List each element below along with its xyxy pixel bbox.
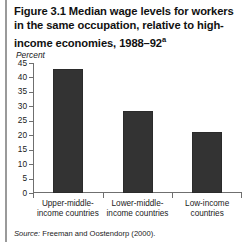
y-tick-label: 35: [18, 86, 27, 96]
x-tick-mark: [103, 193, 104, 198]
plot-area: 051015202530354045 Upper-middle- income …: [33, 63, 242, 193]
y-tick-label: 10: [18, 159, 27, 169]
bar: [123, 111, 153, 193]
y-tick-label: 30: [18, 101, 27, 111]
figure-title: Figure 3.1 Median wage levels for worker…: [14, 4, 246, 50]
y-tick-label: 20: [18, 130, 27, 140]
source-label: Source:: [14, 229, 40, 238]
title-footnote-marker: a: [162, 35, 166, 44]
y-tick-label: 25: [18, 115, 27, 125]
x-tick-mark: [33, 193, 34, 198]
y-tick-label: 0: [22, 188, 27, 198]
figure-container: Figure 3.1 Median wage levels for worker…: [0, 0, 252, 242]
bar: [192, 132, 222, 193]
bar: [53, 69, 83, 193]
x-tick-mark: [172, 193, 173, 198]
y-tick-label: 15: [18, 144, 27, 154]
y-tick-mark: [29, 150, 33, 151]
y-axis-line: [33, 63, 34, 193]
category-label: Low-income countries: [172, 199, 242, 219]
y-tick-mark: [29, 63, 33, 64]
x-tick-mark: [241, 193, 242, 198]
source-text: Freeman and Oostendorp (2000).: [40, 229, 155, 238]
y-tick-mark: [29, 135, 33, 136]
category-label: Upper-middle- income countries: [33, 199, 103, 219]
left-vertical-rule: [5, 0, 7, 242]
y-tick-mark: [29, 121, 33, 122]
source-note: Source: Freeman and Oostendorp (2000).: [14, 229, 155, 238]
y-tick-mark: [29, 164, 33, 165]
y-tick-label: 45: [18, 58, 27, 68]
y-tick-mark: [29, 179, 33, 180]
category-label: Lower-middle- income countries: [103, 199, 173, 219]
y-tick-label: 5: [22, 173, 27, 183]
y-tick-mark: [29, 106, 33, 107]
y-tick-mark: [29, 77, 33, 78]
y-tick-label: 40: [18, 72, 27, 82]
y-tick-mark: [29, 92, 33, 93]
